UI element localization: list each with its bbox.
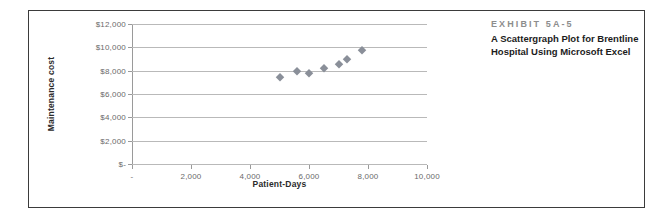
data-point [343, 55, 351, 63]
y-axis-tick-label: $10,000 [96, 43, 126, 52]
data-point [276, 73, 284, 81]
data-point [293, 67, 301, 75]
y-axis-tick [128, 24, 132, 25]
gridline [132, 24, 427, 25]
gridline [132, 164, 427, 165]
x-axis-tick [368, 165, 369, 169]
x-axis-tick [309, 165, 310, 169]
y-axis-tick-label: $12,000 [96, 20, 126, 29]
y-axis-tick [128, 71, 132, 72]
y-axis-tick [128, 47, 132, 48]
gridline [132, 94, 427, 95]
x-axis-title: Patient-Days [132, 179, 427, 189]
x-axis-tick [427, 165, 428, 169]
scattergraph-chart: Maintenance cost $-$2,000$4,000$6,000$8,… [29, 11, 459, 207]
caption-line-1: A Scattergraph Plot for Brentline [491, 33, 641, 46]
y-axis-tick-label: $- [118, 160, 126, 169]
gridline [132, 71, 427, 72]
gridline [132, 141, 427, 142]
y-axis-tick-label: $4,000 [100, 113, 126, 122]
plot-area: $-$2,000$4,000$6,000$8,000$10,000$12,000… [132, 24, 427, 164]
data-point [335, 60, 343, 68]
y-axis-tick [128, 141, 132, 142]
gridline [132, 117, 427, 118]
exhibit-caption: EXHIBIT 5A-5 A Scattergraph Plot for Bre… [491, 19, 641, 58]
y-axis-tick-label: $8,000 [100, 66, 126, 75]
x-axis-tick [132, 165, 133, 169]
y-axis-tick [128, 117, 132, 118]
x-axis-tick [191, 165, 192, 169]
exhibit-number: EXHIBIT 5A-5 [491, 19, 641, 29]
y-axis-tick [128, 94, 132, 95]
gridline [132, 47, 427, 48]
y-axis-title: Maintenance cost [46, 57, 56, 132]
exhibit-frame: Maintenance cost $-$2,000$4,000$6,000$8,… [28, 10, 645, 208]
y-axis-tick-label: $6,000 [100, 90, 126, 99]
x-axis-tick [250, 165, 251, 169]
y-axis-tick-label: $2,000 [100, 136, 126, 145]
caption-line-2: Hospital Using Microsoft Excel [491, 46, 641, 59]
